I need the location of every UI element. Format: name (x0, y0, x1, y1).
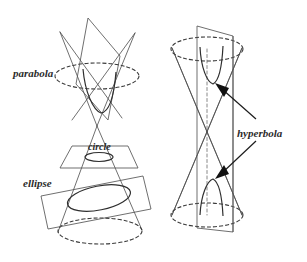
ellipse-plane-outline (41, 176, 151, 229)
arrow-to-lower-hyperbola (215, 141, 256, 179)
label-ellipse: ellipse (23, 177, 52, 189)
upper-cone-cross-left (60, 32, 122, 118)
left-double-cone-group: parabola circle ellipse (12, 18, 151, 244)
label-parabola: parabola (12, 67, 54, 79)
arrow-upper-line (222, 89, 256, 119)
circle-curve (85, 153, 113, 162)
hyperbola-lower-branch (200, 179, 223, 216)
left-upper-cone (55, 32, 139, 126)
hyperbola-cutting-plane (197, 26, 233, 232)
upper-cone-left-slant (60, 32, 97, 126)
hyperbola-plane-outline (197, 26, 233, 232)
label-circle: circle (88, 141, 111, 152)
right-upper-cone (171, 37, 243, 132)
upper-cone-cross-right (72, 33, 135, 120)
conic-sections-figure: parabola circle ellipse (0, 0, 307, 262)
right-lower-cone (171, 132, 243, 227)
ellipse-cutting-plane (41, 176, 151, 229)
arrow-to-upper-hyperbola (215, 83, 256, 119)
hyperbola-upper-branch (200, 46, 223, 84)
arrow-lower-line (222, 141, 256, 173)
right-double-cone-group: hyperbola (171, 26, 283, 232)
conic-sections-illustration: parabola circle ellipse (0, 0, 307, 262)
lower-cone-base-ellipse (58, 218, 142, 244)
label-hyperbola: hyperbola (237, 127, 283, 139)
